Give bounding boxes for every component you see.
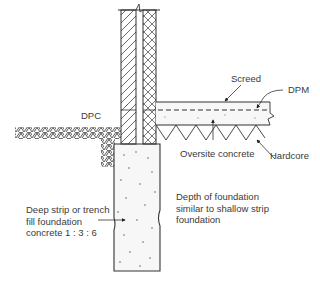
outer-leaf-wall [143, 10, 156, 144]
label-dpm: DPM [288, 84, 309, 96]
hardcore [156, 125, 265, 140]
break-mark-icon [136, 4, 143, 12]
depth-note-line-1: Depth of foundation [176, 191, 269, 203]
label-depth-note: Depth of foundation similar to shallow s… [176, 191, 269, 226]
foundation-section-diagram [0, 0, 320, 282]
depth-note-line-3: foundation [176, 214, 269, 226]
label-foundation: Deep strip or trench fill foundation con… [26, 204, 109, 239]
foundation-line-3: concrete 1 : 3 : 6 [26, 227, 109, 239]
ground [15, 127, 121, 167]
depth-note-line-2: similar to shallow strip [176, 203, 269, 215]
foundation-line-1: Deep strip or trench [26, 204, 109, 216]
trench-fill-foundation [114, 144, 160, 271]
label-hardcore: Hardcore [270, 150, 309, 162]
inner-leaf-wall [121, 10, 136, 144]
label-oversite-concrete: Oversite concrete [180, 148, 254, 160]
foundation-line-2: fill foundation [26, 216, 109, 228]
label-dpc: DPC [81, 110, 101, 122]
label-screed: Screed [231, 73, 261, 85]
floor-slab [156, 102, 274, 125]
